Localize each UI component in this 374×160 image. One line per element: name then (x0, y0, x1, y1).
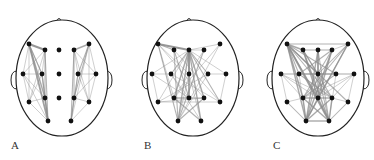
head-outline (16, 20, 108, 136)
electrode-node (46, 119, 51, 124)
electrode-node (87, 100, 92, 105)
electrode-node (327, 119, 332, 124)
electrode-node (297, 72, 302, 77)
head-panel-a (11, 19, 112, 137)
electrode-node (346, 100, 351, 105)
electrode-node (187, 48, 192, 53)
electrode-node (330, 48, 335, 53)
electrode-node (72, 48, 77, 53)
head-panel-b (142, 19, 243, 137)
electrode-node (218, 42, 223, 47)
electrode-node (76, 72, 81, 77)
electrode-node (43, 48, 48, 53)
panel-label-a: A (11, 139, 19, 151)
electrode-node (206, 72, 211, 77)
electrode-node (27, 100, 32, 105)
electrode-node (156, 42, 161, 47)
electrode-node (156, 100, 161, 105)
electrode-node (187, 96, 192, 101)
electrode-node (172, 48, 177, 53)
electrode-node (176, 119, 181, 124)
electrode-node (57, 96, 62, 101)
electrode-node (87, 42, 92, 47)
electrode-node (224, 72, 229, 77)
electrode-node (279, 72, 284, 77)
electrode-node (202, 96, 207, 101)
electrode-node (352, 72, 357, 77)
electrode-node (69, 119, 74, 124)
electrode-node (21, 72, 26, 77)
electrode-node (301, 96, 306, 101)
electrode-node (172, 96, 177, 101)
electrode-node (285, 42, 290, 47)
electrode-node (43, 96, 48, 101)
electrode-node (285, 100, 290, 105)
panel-label-c: C (273, 139, 280, 151)
brain-connectivity-figure (0, 0, 374, 160)
electrode-node (301, 48, 306, 53)
electrode-node (346, 42, 351, 47)
electrode-node (27, 42, 32, 47)
electrode-node (199, 119, 204, 124)
electrode-node (150, 72, 155, 77)
electrode-node (316, 48, 321, 53)
electrode-node (330, 96, 335, 101)
electrode-node (218, 100, 223, 105)
electrode-node (316, 96, 321, 101)
electrode-node (169, 72, 174, 77)
electrode-node (57, 48, 62, 53)
electrode-node (40, 72, 45, 77)
electrode-node (316, 72, 321, 77)
electrode-node (187, 72, 192, 77)
electrode-node (57, 72, 62, 77)
electrode-node (202, 48, 207, 53)
panel-label-b: B (144, 139, 151, 151)
electrode-node (334, 72, 339, 77)
electrode-node (72, 96, 77, 101)
electrode-node (304, 119, 309, 124)
head-panel-c (267, 19, 369, 137)
electrode-node (94, 72, 99, 77)
